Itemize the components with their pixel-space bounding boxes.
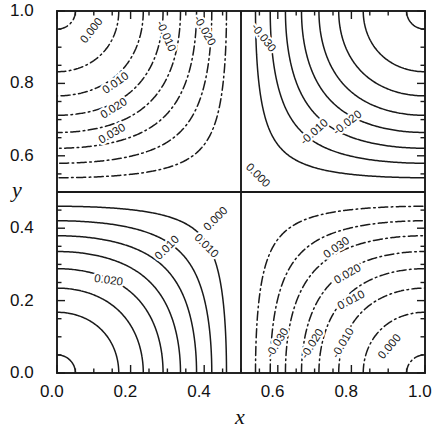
y-tick-label: 0.8 <box>10 73 34 93</box>
x-tick-label: 0.4 <box>187 382 211 402</box>
contour-plot-canvas: 0.0000.0000.0100.0100.0200.0200.0300.030… <box>0 0 438 434</box>
x-tick-label: 0.0 <box>40 382 64 402</box>
contour-level--0.040 <box>57 11 75 29</box>
contour-label: 0.000 <box>78 15 105 45</box>
contour-label: 0.020 <box>98 95 129 120</box>
contour-label: 0.010 <box>100 69 130 95</box>
y-tick-label: 1.0 <box>10 1 34 21</box>
y-tick-label: 0.0 <box>10 363 34 383</box>
contour-label: 0.020 <box>94 272 124 288</box>
contour-label: 0.030 <box>321 234 351 260</box>
contour-label: 0.010 <box>192 231 221 260</box>
x-axis-label: x <box>235 404 245 430</box>
contour-label: 0.010 <box>335 288 366 312</box>
contour-level-0.040 <box>57 355 75 373</box>
contour-level-0.015 <box>285 11 425 148</box>
contour-label: -0.010 <box>329 326 356 360</box>
contour-label: 0.000 <box>201 204 230 233</box>
y-tick-label: 0.6 <box>10 146 34 166</box>
x-tick-label: 0.2 <box>114 382 138 402</box>
x-tick-label: 0.8 <box>334 382 358 402</box>
contour-label: -0.030 <box>249 21 279 54</box>
contour-label: 0.000 <box>244 161 273 190</box>
contour-label: -0.020 <box>331 108 364 138</box>
contour-figure: 0.0000.0000.0100.0100.0200.0200.0300.030… <box>0 0 438 434</box>
contour-level-0.035 <box>363 11 425 72</box>
y-axis-label: y <box>12 177 22 203</box>
contour-level-0.010 <box>57 221 212 373</box>
contour-level-0.010 <box>270 11 425 163</box>
x-tick-label: 0.6 <box>261 382 285 402</box>
contour-level-0.025 <box>319 11 425 115</box>
contour-level-0.015 <box>57 236 197 373</box>
contour-level-0.035 <box>57 312 119 373</box>
x-tick-label: 1.0 <box>408 382 432 402</box>
contour-level--0.025 <box>57 11 163 115</box>
contour-label: 0.010 <box>152 233 181 262</box>
y-tick-label: 0.4 <box>10 218 34 238</box>
contour-level-0.040 <box>407 11 425 29</box>
contour-lines <box>57 11 425 373</box>
contour-label: 0.000 <box>375 331 403 361</box>
contour-level--0.040 <box>407 355 425 373</box>
contour-label: 0.020 <box>332 261 363 286</box>
y-tick-label: 0.2 <box>10 291 34 311</box>
